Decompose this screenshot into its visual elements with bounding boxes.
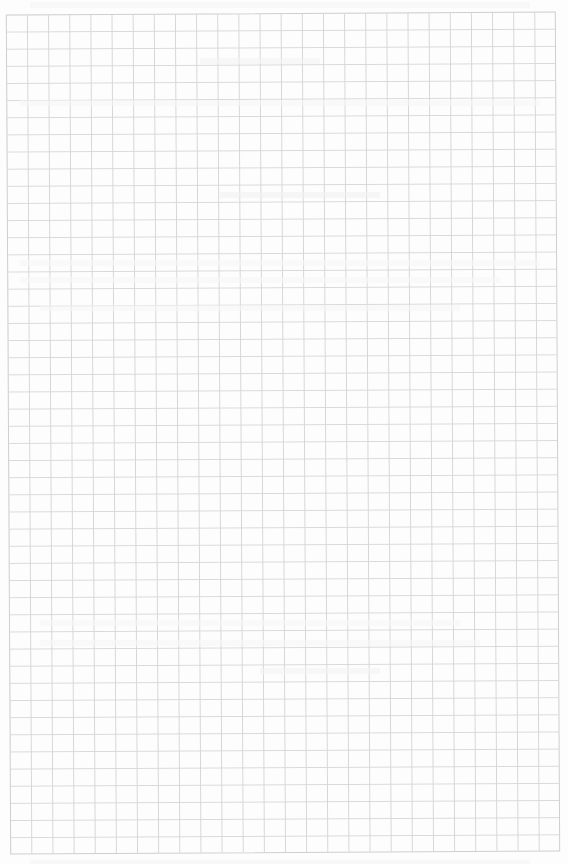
show-through-band [40, 620, 460, 626]
show-through-band [20, 100, 540, 106]
show-through-band [260, 668, 380, 674]
show-through-band [200, 58, 320, 64]
show-through-band [40, 305, 460, 311]
show-through-band [20, 260, 540, 266]
show-through-band-header [30, 2, 530, 8]
show-through-band [20, 277, 500, 283]
graph-paper-sheet [0, 0, 568, 864]
show-through-band [40, 640, 480, 646]
grid-area [6, 12, 560, 855]
show-through-band-footer [30, 860, 530, 864]
show-through-band [220, 192, 380, 198]
